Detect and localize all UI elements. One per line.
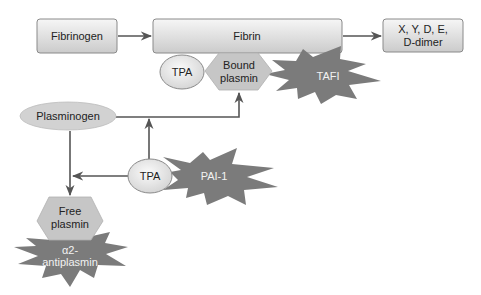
pai1-label: PAI-1	[201, 170, 228, 182]
bound-plasmin-label-line2: plasmin	[220, 72, 258, 84]
node-tpa-mid: TPA	[128, 159, 172, 193]
node-degradation-products: X, Y, D, E, D-dimer	[383, 19, 463, 52]
degradation-label-line1: X, Y, D, E,	[398, 23, 448, 35]
tpa-top-label: TPA	[172, 66, 193, 78]
arrow-plasminogen-to-bound-plasmin	[116, 93, 239, 117]
node-bound-plasmin: Bound plasmin	[205, 53, 272, 90]
free-plasmin-label-line1: Free	[59, 205, 82, 217]
bound-plasmin-label-line1: Bound	[223, 59, 255, 71]
degradation-label-line2: D-dimer	[403, 36, 442, 48]
node-fibrin: Fibrin	[153, 19, 342, 53]
free-plasmin-label-line2: plasmin	[51, 218, 89, 230]
node-tpa-top: TPA	[160, 55, 204, 89]
tafi-label: TAFI	[316, 70, 339, 82]
node-tafi: TAFI	[265, 46, 381, 104]
fibrin-label: Fibrin	[233, 30, 261, 42]
node-pai1: PAI-1	[163, 148, 278, 205]
tpa-mid-label: TPA	[140, 170, 161, 182]
fibrinogen-label: Fibrinogen	[51, 30, 103, 42]
fibrinolysis-diagram: Fibrinogen Fibrin X, Y, D, E, D-dimer TA…	[0, 0, 481, 295]
node-free-plasmin: Free plasmin	[37, 197, 103, 240]
plasminogen-label: Plasminogen	[36, 110, 100, 122]
node-fibrinogen: Fibrinogen	[37, 19, 117, 53]
antiplasmin-label-line2: antiplasmin	[42, 256, 98, 268]
antiplasmin-label-line1: α2-	[62, 244, 78, 256]
node-plasminogen: Plasminogen	[20, 102, 116, 130]
